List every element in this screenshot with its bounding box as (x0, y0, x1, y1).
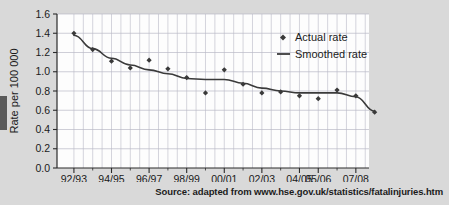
x-tick-label: 98/99 (174, 173, 200, 182)
legend-label-actual: Actual rate (295, 31, 348, 43)
chart-canvas: 0.00.20.40.60.81.01.21.41.6 92/9394/9596… (0, 0, 449, 182)
figure-container: 0.00.20.40.60.81.01.21.41.6 92/9394/9596… (0, 0, 449, 205)
y-tick-label: 1.6 (35, 8, 50, 20)
y-axis-ticks: 0.00.20.40.60.81.01.21.41.6 (35, 8, 57, 174)
rate-line-chart: 0.00.20.40.60.81.01.21.41.6 92/9394/9596… (0, 0, 449, 182)
y-tick-label: 0.0 (35, 162, 50, 174)
x-tick-label: 05/06 (305, 173, 331, 182)
y-tick-label: 1.2 (35, 46, 50, 58)
legend-label-smoothed: Smoothed rate (295, 48, 367, 60)
y-axis-label: Rate per 100 000 (8, 48, 20, 133)
x-axis-ticks: 92/9394/9596/9798/9900/0102/0304/0505/06… (61, 168, 369, 182)
x-tick-label: 02/03 (249, 173, 275, 182)
x-tick-label: 00/01 (211, 173, 237, 182)
x-tick-label: 96/97 (136, 173, 162, 182)
y-tick-label: 0.8 (35, 85, 50, 97)
y-tick-label: 1.0 (35, 65, 50, 77)
source-attribution: Source: adapted from www.hse.gov.uk/stat… (0, 186, 443, 197)
y-tick-label: 0.6 (35, 104, 50, 116)
y-tick-label: 0.2 (35, 142, 50, 154)
x-tick-label: 92/93 (61, 173, 87, 182)
y-tick-label: 1.4 (35, 27, 50, 39)
y-tick-label: 0.4 (35, 123, 50, 135)
x-tick-label: 07/08 (343, 173, 369, 182)
x-tick-label: 94/95 (98, 173, 124, 182)
